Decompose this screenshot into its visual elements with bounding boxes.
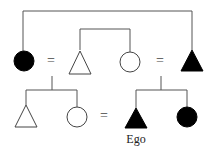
open-female-circle-m [120,52,140,72]
middle-sibling-bracket [80,29,130,52]
marriage-sign-1: = [47,53,55,68]
kinship-diagram: = = = Ego [0,0,211,152]
open-female-circle-z [67,107,87,127]
right-sibling-bracket [136,90,187,108]
filled-male-triangle-mb [181,50,203,71]
outer-sibling-bracket [23,11,192,51]
marriage-sign-2: = [156,53,164,68]
marriage-sign-3: = [100,108,108,123]
open-male-triangle-b [15,105,37,127]
ego-label: Ego [126,132,145,146]
left-sibling-bracket [26,90,77,107]
filled-female-circle-fz [14,51,34,71]
open-male-triangle-f [69,51,91,74]
filled-male-triangle-ego [125,108,147,128]
filled-female-circle-sz [177,107,197,127]
